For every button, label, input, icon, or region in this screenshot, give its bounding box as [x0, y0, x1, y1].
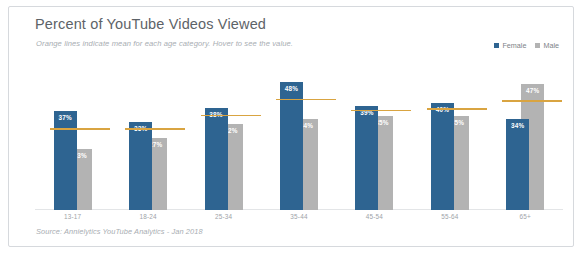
chart-source: Source: Annielytics YouTube Analytics - …	[36, 227, 203, 236]
bar-female[interactable]: 39%	[355, 106, 378, 210]
bar-group: 47%34%65+	[506, 63, 544, 210]
category-label: 55-64	[431, 213, 469, 220]
bar-female[interactable]: 33%	[129, 122, 152, 210]
mean-line[interactable]	[351, 110, 411, 111]
bar-female[interactable]: 34%	[506, 119, 529, 210]
mean-line[interactable]	[502, 100, 562, 101]
category-label: 18-24	[129, 213, 167, 220]
bar-group: 23%37%13-17	[54, 63, 92, 210]
category-label: 25-34	[205, 213, 243, 220]
page-title: Percent of YouTube Videos Viewed	[35, 16, 266, 32]
category-label: 45-54	[355, 213, 393, 220]
bar-value-female: 34%	[506, 122, 529, 129]
legend-swatch-female	[494, 43, 499, 48]
chart-header: Percent of YouTube Videos Viewed Orange …	[9, 7, 573, 55]
category-label: 65+	[506, 213, 544, 220]
mean-line[interactable]	[50, 128, 110, 129]
bar-group: 27%33%18-24	[129, 63, 167, 210]
bar-group: 32%38%25-34	[205, 63, 243, 210]
bar-value-female: 37%	[54, 114, 77, 121]
bar-value-male: 47%	[521, 87, 544, 94]
chart-card: Percent of YouTube Videos Viewed Orange …	[8, 6, 574, 247]
category-label: 13-17	[54, 213, 92, 220]
bar-female[interactable]: 38%	[205, 108, 228, 210]
chart-subtitle: Orange lines indicate mean for each age …	[36, 39, 293, 48]
legend-item-male[interactable]: Male	[535, 41, 559, 50]
bar-group: 35%39%45-54	[355, 63, 393, 210]
bar-female[interactable]: 40%	[431, 103, 454, 210]
bar-value-female: 48%	[280, 85, 303, 92]
category-label: 35-44	[280, 213, 318, 220]
chart-legend: Female Male	[494, 41, 559, 50]
mean-line[interactable]	[427, 108, 487, 109]
mean-line[interactable]	[201, 115, 261, 116]
bar-group: 35%40%55-64	[431, 63, 469, 210]
bar-chart-plot: 23%37%13-1727%33%18-2432%38%25-3434%48%3…	[35, 63, 563, 210]
legend-label-female: Female	[502, 41, 526, 50]
mean-line[interactable]	[125, 128, 185, 129]
bar-female[interactable]: 48%	[280, 82, 303, 210]
bar-female[interactable]: 37%	[54, 111, 77, 210]
legend-item-female[interactable]: Female	[494, 41, 526, 50]
legend-swatch-male	[535, 43, 540, 48]
mean-line[interactable]	[276, 99, 336, 100]
legend-label-male: Male	[543, 41, 559, 50]
bar-group: 34%48%35-44	[280, 63, 318, 210]
